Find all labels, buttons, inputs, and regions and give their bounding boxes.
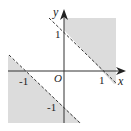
origin-label: O (54, 72, 62, 84)
x-tick-neg: -1 (19, 75, 28, 87)
x-tick-pos: 1 (99, 74, 105, 86)
x-axis-label: x (117, 74, 124, 88)
y-axis-label: y (52, 5, 59, 19)
y-tick-neg: -1 (47, 101, 56, 113)
upper-shaded-region (64, 18, 116, 84)
inequality-diagram: y x O 1 1 -1 -1 (0, 0, 131, 131)
y-tick-pos: 1 (55, 28, 61, 40)
lower-shaded-region (8, 55, 81, 123)
